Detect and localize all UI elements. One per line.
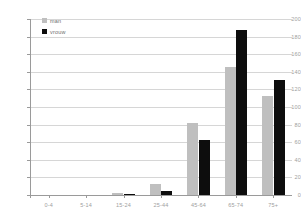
x-tick-label: 15-24 <box>104 202 144 209</box>
x-tick-label: 75+ <box>253 202 293 209</box>
gridline <box>30 125 292 126</box>
x-tick-label: 45-64 <box>178 202 218 209</box>
bar-vrouw-15-24 <box>124 194 135 195</box>
x-tick-label: 0-4 <box>29 202 69 209</box>
bar-man-65-74 <box>225 67 236 195</box>
gridline <box>30 37 292 38</box>
y-tick-label: 140 <box>275 69 301 75</box>
legend-swatch-vrouw-icon <box>42 29 47 34</box>
gridline <box>30 72 292 73</box>
gridline <box>30 177 292 178</box>
x-tick-mark <box>49 195 50 198</box>
gridline <box>30 142 292 143</box>
x-tick-mark <box>236 195 237 198</box>
bar-man-45-64 <box>187 123 198 195</box>
legend-label-vrouw: vrouw <box>50 29 66 35</box>
y-tick-label: 180 <box>275 34 301 40</box>
bar-vrouw-45-64 <box>199 140 210 195</box>
y-tick-label: 160 <box>275 51 301 57</box>
x-tick-mark <box>161 195 162 198</box>
gridline <box>30 54 292 55</box>
gridline <box>30 160 292 161</box>
bar-chart: 020406080100120140160180200 0-45-1415-24… <box>0 0 301 218</box>
legend-item-vrouw: vrouw <box>42 27 66 36</box>
y-tick-label: 200 <box>275 16 301 22</box>
x-tick-label: 5-14 <box>66 202 106 209</box>
bar-vrouw-65-74 <box>236 30 247 195</box>
legend: man vrouw <box>42 16 66 38</box>
gridline <box>30 19 292 20</box>
bar-man-15-24 <box>112 193 123 195</box>
x-axis-origin-mark <box>30 195 31 198</box>
gridline <box>30 89 292 90</box>
bar-man-75+ <box>262 96 273 195</box>
legend-label-man: man <box>50 18 61 24</box>
legend-swatch-man-icon <box>42 18 47 23</box>
bar-vrouw-75+ <box>274 80 285 195</box>
x-tick-mark <box>198 195 199 198</box>
x-tick-mark <box>273 195 274 198</box>
bar-man-25-44 <box>150 184 161 195</box>
gridline <box>30 107 292 108</box>
bar-vrouw-25-44 <box>161 191 172 195</box>
y-axis-line <box>30 19 31 196</box>
legend-item-man: man <box>42 16 66 25</box>
x-tick-label: 25-44 <box>141 202 181 209</box>
x-tick-label: 65-74 <box>216 202 256 209</box>
x-tick-mark <box>124 195 125 198</box>
x-tick-mark <box>86 195 87 198</box>
